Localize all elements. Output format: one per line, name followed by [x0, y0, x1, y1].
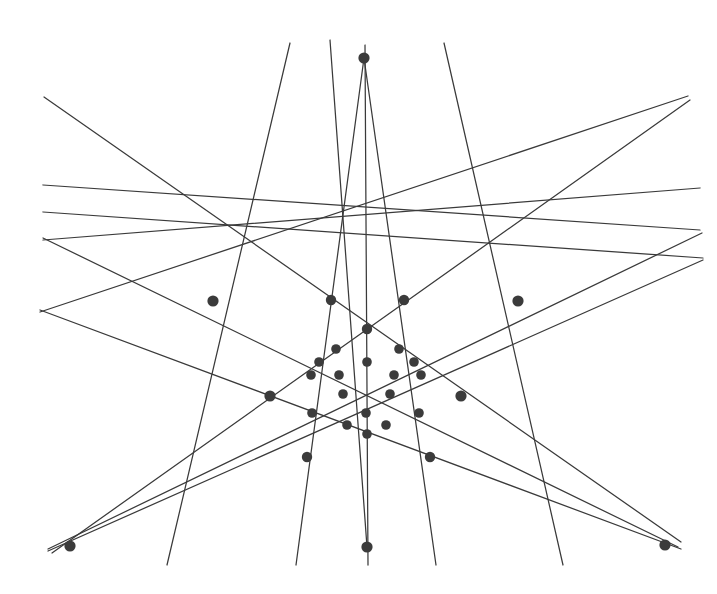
configuration-point-row2-right [394, 344, 404, 354]
configuration-point-bottom-apex [361, 541, 372, 552]
configuration-point-row6-right [414, 408, 424, 418]
configuration-point-row2-left [331, 344, 341, 354]
configuration-point-row3-right [409, 357, 419, 367]
configuration-point-row4-right [389, 370, 399, 380]
configuration-point-upper-left-node [326, 295, 336, 305]
figure-background [0, 0, 717, 594]
configuration-canvas [0, 0, 717, 594]
configuration-point-lower-right-node [425, 452, 435, 462]
configuration-point-right-upper-hub [512, 295, 523, 306]
configuration-point-row5-left [338, 389, 348, 399]
configuration-point-row4-left [334, 370, 344, 380]
configuration-point-right-mid-hub [455, 390, 466, 401]
configuration-point-bottom-left-apex [64, 540, 75, 551]
configuration-point-top-apex [358, 52, 369, 63]
configuration-point-row3-left [314, 357, 324, 367]
configuration-point-left-mid-hub [264, 390, 275, 401]
configuration-point-row6-left [307, 408, 317, 418]
configuration-point-lower-left-node [302, 452, 312, 462]
configuration-point-row5-right [385, 389, 395, 399]
configuration-point-row8-center [362, 429, 372, 439]
configuration-point-row4-far-right [416, 370, 426, 380]
configuration-point-row7-left [342, 420, 352, 430]
configuration-point-upper-right-node [399, 295, 409, 305]
configuration-point-row7-right [381, 420, 391, 430]
configuration-point-row4-far-left [306, 370, 316, 380]
configuration-point-upper-center-node [362, 324, 372, 334]
configuration-point-row6-center [361, 408, 371, 418]
configuration-point-left-upper-hub [207, 295, 218, 306]
configuration-point-row3-center [362, 357, 372, 367]
configuration-point-bottom-right-apex [659, 539, 670, 550]
configuration-figure [0, 0, 717, 594]
